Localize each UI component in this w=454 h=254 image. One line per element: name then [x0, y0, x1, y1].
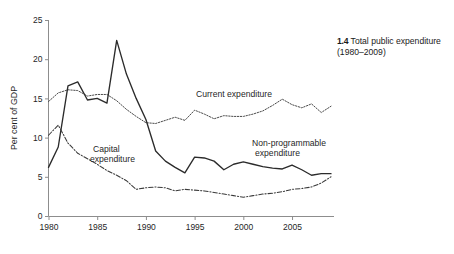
y-tick-label: 10 — [33, 133, 43, 143]
series-line-current-expenditure — [49, 90, 332, 124]
y-axis-title: Per cent of GDP — [9, 86, 19, 150]
series-label-capital-expenditure-line1: Capital — [93, 144, 120, 154]
series-paths-group — [49, 40, 332, 197]
figure-caption-text: Total public expenditure (1980–2009) — [337, 36, 441, 57]
figure-caption-number: 1.4 — [337, 36, 348, 46]
x-axis-ticks: 198019851990199520002005 — [40, 216, 303, 232]
y-axis-ticks: 0510152025 — [33, 15, 48, 221]
x-tick-label: 1995 — [186, 222, 205, 232]
series-label-capital-expenditure-line2: expenditure — [90, 154, 135, 164]
series-label-non-programmable-expenditure-line1: Non-programmable — [252, 138, 326, 148]
series-label-non-programmable-expenditure-line2: expenditure — [255, 148, 300, 158]
x-tick-label: 1990 — [137, 222, 156, 232]
y-tick-label: 0 — [38, 211, 43, 221]
figure-caption: 1.4 Total public expenditure (1980–2009) — [337, 36, 449, 59]
y-tick-label: 25 — [33, 15, 43, 25]
x-tick-label: 2005 — [283, 222, 302, 232]
x-tick-label: 1980 — [40, 222, 59, 232]
y-tick-label: 5 — [38, 172, 43, 182]
x-tick-label: 2000 — [234, 222, 253, 232]
figure-container: 0510152025 198019851990199520002005 Per … — [0, 0, 454, 254]
series-label-current-expenditure: Current expenditure — [196, 89, 272, 99]
y-tick-label: 20 — [33, 54, 43, 64]
y-tick-label: 15 — [33, 94, 43, 104]
x-tick-label: 1985 — [88, 222, 107, 232]
